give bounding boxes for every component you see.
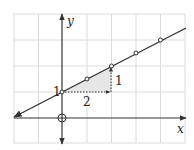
- point: [134, 51, 138, 55]
- point: [110, 64, 114, 68]
- graph-canvas: y x 1 2 1: [0, 0, 194, 150]
- point: [159, 38, 163, 42]
- y-axis-label: y: [66, 14, 74, 28]
- x-axis-label: x: [177, 122, 184, 136]
- point: [85, 77, 89, 81]
- intercept-label: 1: [53, 85, 61, 99]
- run-label: 2: [83, 95, 91, 109]
- rise-label: 1: [115, 74, 123, 88]
